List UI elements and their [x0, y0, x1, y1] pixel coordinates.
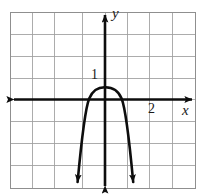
graph-figure: y x 1 2	[0, 0, 200, 196]
x-tick-label-2: 2	[148, 102, 155, 116]
y-axis-label: y	[112, 6, 119, 21]
parabola-right-branch	[105, 87, 133, 182]
y-tick-label-1: 1	[91, 68, 98, 82]
x-axis-label: x	[182, 103, 189, 118]
coordinate-plane	[0, 0, 200, 196]
parabola-left-branch	[78, 87, 105, 182]
